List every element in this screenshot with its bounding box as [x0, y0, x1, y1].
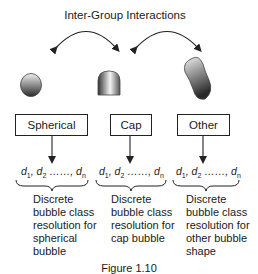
- other-label: Other: [189, 119, 218, 131]
- class-list-cap: d1, d2 ……, dn: [99, 165, 164, 179]
- interaction-arrow-cap-other: [135, 32, 199, 50]
- description-cap: Discrete bubble class resolution for cap…: [111, 193, 175, 245]
- brace-cap: [96, 180, 166, 191]
- spherical-box: Spherical: [15, 114, 88, 136]
- class-list-other: d1, d2 ……, dn: [176, 165, 241, 179]
- description-spherical: Discrete bubble class resolution for sph…: [33, 193, 97, 258]
- cap-box: Cap: [110, 114, 152, 136]
- figure-caption: Figure 1.10: [0, 262, 258, 274]
- sphere-bubble-icon: [21, 74, 42, 97]
- other-box: Other: [177, 114, 230, 136]
- brace-other: [173, 180, 239, 191]
- spherical-label: Spherical: [28, 119, 76, 131]
- interaction-arrow-spherical-cap: [55, 32, 117, 50]
- class-list-spherical: d1, d2 ……, dn: [21, 165, 86, 179]
- cap-bubble-icon: [98, 71, 120, 95]
- cap-label: Cap: [120, 119, 141, 131]
- irregular-bubble-icon: [184, 57, 210, 99]
- description-other: Discrete bubble class resolution for oth…: [186, 193, 250, 258]
- brace-spherical: [16, 180, 88, 191]
